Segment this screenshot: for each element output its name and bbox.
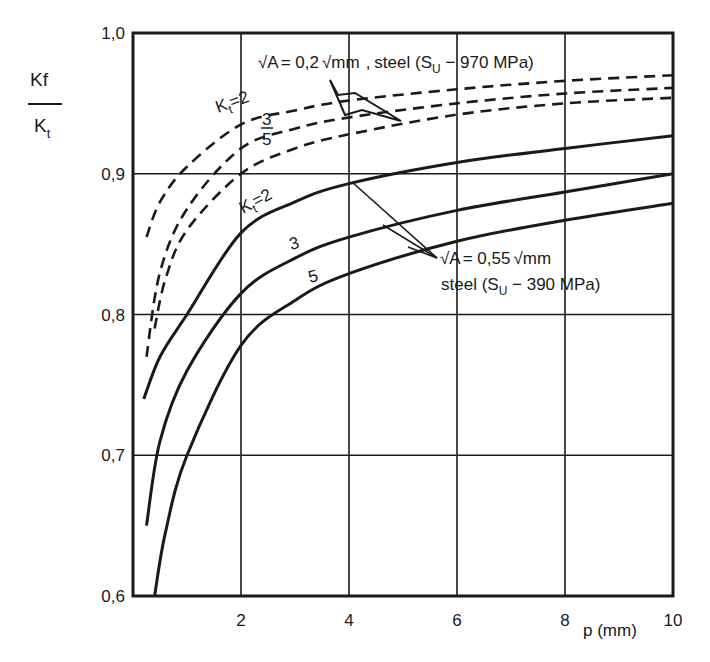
curve-solid-3 bbox=[144, 136, 673, 399]
label-solid-kt3: 3 bbox=[287, 233, 301, 254]
y-label-numerator: Kf bbox=[30, 69, 49, 90]
y-tick-label: 0,6 bbox=[101, 587, 125, 606]
curve-labels-dashed: Kt=2 3 5 bbox=[213, 87, 273, 149]
svg-text:√A= 0,2√mm,steel (SU − 970 MPa: √A= 0,2√mm,steel (SU − 970 MPa) bbox=[258, 53, 534, 76]
x-axis-label: p (mm) bbox=[583, 621, 637, 640]
curves bbox=[144, 75, 673, 596]
y-tick-label: 0,7 bbox=[101, 446, 125, 465]
x-tick-label: 6 bbox=[452, 611, 461, 630]
pointer-arrow-bottom bbox=[352, 182, 437, 258]
x-tick-label: 2 bbox=[236, 611, 245, 630]
y-tick-labels: 0,60,70,80,91,0 bbox=[101, 24, 125, 606]
y-label-denominator: K bbox=[34, 115, 47, 136]
x-tick-label: 4 bbox=[344, 611, 353, 630]
y-tick-label: 0,9 bbox=[101, 165, 125, 184]
label-dashed-kt5: 5 bbox=[262, 130, 271, 149]
y-tick-label: 1,0 bbox=[101, 24, 125, 43]
annotation-dashed-group: √A= 0,2√mm,steel (SU − 970 MPa) bbox=[258, 53, 534, 76]
label-solid-kt2: Kt=2 bbox=[236, 185, 277, 221]
svg-text:Kt: Kt bbox=[34, 115, 51, 141]
chart: Kf Kt 0,60,70,80,91,0 246810 √A= 0,2√mm,… bbox=[0, 0, 710, 662]
label-dashed-kt3: 3 bbox=[262, 110, 271, 129]
grid bbox=[133, 33, 673, 596]
label-dashed-kt2: Kt=2 bbox=[213, 87, 253, 120]
chart-svg: Kf Kt 0,60,70,80,91,0 246810 √A= 0,2√mm,… bbox=[0, 0, 710, 662]
annotation-solid-group: √A= 0,55√mm steel (SU − 390 MPa) bbox=[440, 249, 600, 298]
label-solid-kt5: 5 bbox=[306, 266, 320, 287]
svg-text:steel (SU − 390 MPa): steel (SU − 390 MPa) bbox=[441, 275, 600, 298]
curve-dashed-0 bbox=[147, 75, 674, 237]
x-tick-label: 8 bbox=[560, 611, 569, 630]
curve-solid-5 bbox=[155, 203, 673, 596]
curve-labels-solid: Kt=2 3 5 bbox=[236, 185, 320, 287]
x-tick-label: 10 bbox=[664, 611, 683, 630]
y-tick-label: 0,8 bbox=[101, 306, 125, 325]
y-axis-label: Kf Kt bbox=[28, 69, 62, 141]
svg-text:√A= 0,55√mm: √A= 0,55√mm bbox=[440, 249, 551, 268]
curve-solid-4 bbox=[147, 174, 674, 526]
